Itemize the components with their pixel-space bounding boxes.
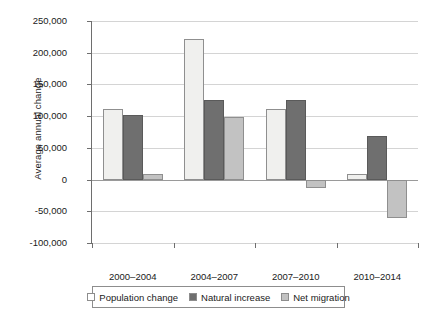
legend-swatch-population-change (87, 293, 95, 301)
x-tick-mark (255, 243, 256, 248)
x-axis-label: 2000–2004 (92, 271, 174, 282)
bar-group (347, 21, 407, 243)
legend-label-natural-increase: Natural increase (201, 292, 270, 303)
y-axis-title: Average annual change (32, 29, 43, 229)
y-tick-label: 200,000 (1, 48, 67, 58)
legend-label-population-change: Population change (99, 292, 178, 303)
x-tick-mark (92, 243, 93, 248)
bar (306, 180, 326, 189)
bar-group (184, 21, 244, 243)
y-tick-label: 50,000 (1, 143, 67, 153)
bar (224, 117, 244, 180)
x-tick-mark (174, 243, 175, 248)
y-tick-mark (87, 211, 92, 212)
y-tick-mark (87, 21, 92, 22)
y-axis-line (91, 21, 92, 243)
bar (387, 180, 407, 219)
y-tick-label: 150,000 (1, 79, 67, 89)
x-axis-label: 2010–2014 (337, 271, 419, 282)
bar (184, 39, 204, 180)
legend-label-net-migration: Net migration (293, 292, 350, 303)
bar-chart: Average annual change 250,000200,000150,… (0, 0, 437, 325)
bar (123, 115, 143, 180)
bar (204, 100, 224, 179)
bar (286, 100, 306, 179)
legend-item-net-migration: Net migration (281, 292, 350, 303)
bar-group (103, 21, 163, 243)
x-axis-label: 2004–2007 (174, 271, 256, 282)
y-tick-mark (87, 53, 92, 54)
legend-swatch-natural-increase (189, 293, 197, 301)
bar-group (266, 21, 326, 243)
legend-item-natural-increase: Natural increase (189, 292, 270, 303)
y-tick-label: -50,000 (1, 206, 67, 216)
y-tick-label: -100,000 (1, 238, 67, 248)
y-tick-mark (87, 116, 92, 117)
bar (103, 109, 123, 179)
bar (143, 174, 163, 179)
bar (266, 109, 286, 180)
legend-item-population-change: Population change (87, 292, 178, 303)
x-tick-mark (418, 243, 419, 248)
x-tick-mark (337, 243, 338, 248)
bar (367, 136, 387, 179)
bar (347, 174, 367, 179)
y-tick-mark (87, 84, 92, 85)
y-tick-label: 250,000 (1, 16, 67, 26)
chart-legend: Population change Natural increase Net m… (92, 286, 345, 308)
y-tick-mark (87, 148, 92, 149)
y-tick-label: 100,000 (1, 111, 67, 121)
x-axis-label: 2007–2010 (255, 271, 337, 282)
y-tick-mark (87, 180, 92, 181)
legend-swatch-net-migration (281, 293, 289, 301)
y-tick-label: 0 (1, 175, 67, 185)
plot-area: 250,000200,000150,000100,00050,0000-50,0… (92, 21, 418, 243)
